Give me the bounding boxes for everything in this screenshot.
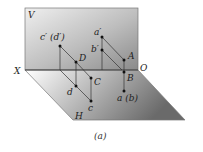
orthographic-projection-diagram: V H X O c′ (d′) a′ b′ A B D C d c a (b) … bbox=[0, 0, 203, 152]
point-c-prime-d-prime bbox=[59, 45, 62, 48]
point-b-prime bbox=[101, 49, 104, 52]
horizontal-plane bbox=[25, 70, 185, 120]
figure-caption: (a) bbox=[94, 131, 107, 141]
label-d: d bbox=[67, 87, 73, 97]
label-B: B bbox=[126, 73, 134, 83]
label-a-b: a (b) bbox=[117, 93, 138, 103]
label-H: H bbox=[74, 111, 83, 121]
point-B bbox=[123, 71, 126, 74]
label-c-prime-d-prime: c′ (d′) bbox=[40, 32, 65, 42]
label-a-prime: a′ bbox=[94, 27, 101, 37]
label-D: D bbox=[78, 53, 86, 63]
point-A bbox=[123, 59, 126, 62]
point-C bbox=[90, 77, 93, 80]
label-b-prime: b′ bbox=[91, 44, 99, 54]
point-D bbox=[75, 61, 78, 64]
label-O: O bbox=[140, 63, 148, 73]
label-C: C bbox=[94, 77, 101, 87]
label-X: X bbox=[13, 66, 21, 76]
label-A: A bbox=[127, 51, 135, 61]
point-d bbox=[75, 85, 78, 88]
label-c: c bbox=[88, 103, 93, 113]
